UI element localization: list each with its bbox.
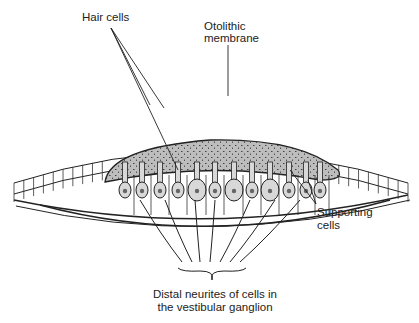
neurite bbox=[230, 200, 275, 262]
macula-illustration bbox=[0, 0, 419, 323]
neurite bbox=[210, 200, 215, 262]
neurites bbox=[140, 200, 300, 262]
label-hair-cells: Hair cells bbox=[82, 11, 129, 24]
neurite-brace bbox=[178, 268, 246, 280]
label-otolithic-membrane-2: membrane bbox=[204, 32, 259, 45]
diagram-canvas: Hair cells Otolithic membrane Supporting… bbox=[0, 0, 419, 323]
label-neurites-1: Distal neurites of cells in bbox=[130, 288, 300, 301]
label-supporting-cells-1: Supporting bbox=[317, 206, 373, 219]
neurite bbox=[165, 200, 192, 262]
neurite bbox=[195, 200, 200, 262]
label-supporting-cells-2: cells bbox=[317, 219, 340, 232]
neurite bbox=[220, 200, 250, 262]
neurite bbox=[140, 200, 182, 262]
neurite bbox=[240, 200, 300, 262]
label-neurites-2: the vestibular ganglion bbox=[130, 301, 300, 314]
